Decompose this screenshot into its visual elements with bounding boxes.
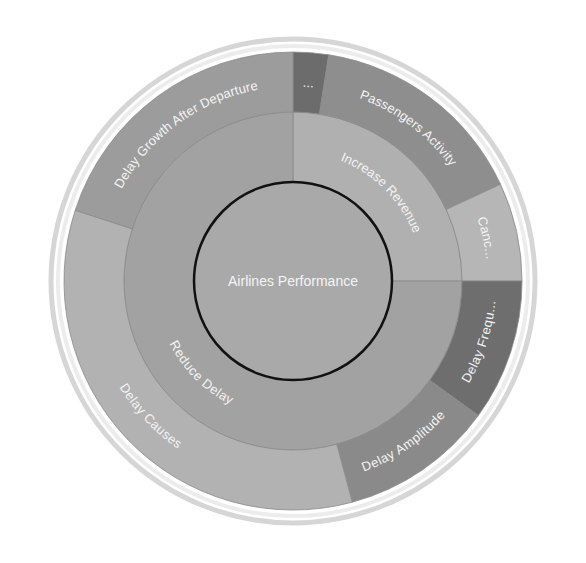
segment-label-more: ...	[302, 75, 315, 91]
center-label: Airlines Performance	[228, 273, 358, 289]
sunburst-chart: Increase RevenueReduce Delay...Passenger…	[0, 0, 586, 563]
